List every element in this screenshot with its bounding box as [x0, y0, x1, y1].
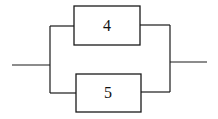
parallel-block-diagram: 4 5 [0, 0, 218, 119]
component-label-bottom: 5 [104, 84, 112, 101]
component-label-top: 4 [103, 17, 111, 34]
